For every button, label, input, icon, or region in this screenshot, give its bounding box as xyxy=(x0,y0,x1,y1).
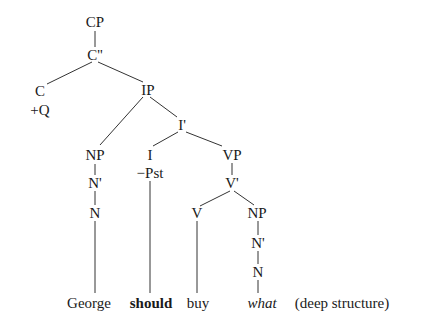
node-ip: IP xyxy=(141,82,154,98)
node-n-bar-subject: N' xyxy=(88,175,102,191)
node-c: C xyxy=(35,83,45,99)
tree-edges xyxy=(0,0,424,332)
deep-structure-label: (deep structure) xyxy=(295,295,390,311)
word-buy: buy xyxy=(187,295,210,311)
node-v: V xyxy=(192,205,203,221)
node-vp: VP xyxy=(222,147,241,163)
node-i: I xyxy=(148,147,153,163)
node-np-subject: NP xyxy=(85,147,104,163)
node-n-object: N xyxy=(253,264,264,280)
node-cp: CP xyxy=(86,14,104,30)
node-v-bar: V' xyxy=(225,175,239,191)
node-n-subject: N xyxy=(90,205,101,221)
node-np-object: NP xyxy=(247,205,266,221)
node-c-double-bar: C'' xyxy=(87,47,102,63)
word-what: what xyxy=(247,295,276,311)
node-n-bar-object: N' xyxy=(251,235,265,251)
feature-plus-q: +Q xyxy=(30,102,49,118)
feature-minus-past: −Pst xyxy=(137,165,164,181)
word-george: George xyxy=(67,295,111,311)
node-i-bar: I' xyxy=(178,117,186,133)
word-should: should xyxy=(130,295,173,311)
